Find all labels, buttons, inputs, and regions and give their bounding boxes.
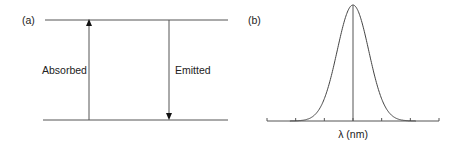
figure: (a) Absorbed Emitted (b) λ (nm) [0, 0, 459, 145]
x-axis-label: λ (nm) [338, 128, 368, 140]
panel-b: (b) λ (nm) [248, 5, 439, 140]
emitted-arrowhead-icon [166, 113, 172, 120]
emitted-label: Emitted [175, 64, 211, 76]
panel-a: (a) Absorbed Emitted [22, 14, 228, 120]
panel-b-label: (b) [248, 14, 261, 26]
absorbed-label: Absorbed [42, 64, 87, 76]
panel-a-label: (a) [22, 14, 35, 26]
